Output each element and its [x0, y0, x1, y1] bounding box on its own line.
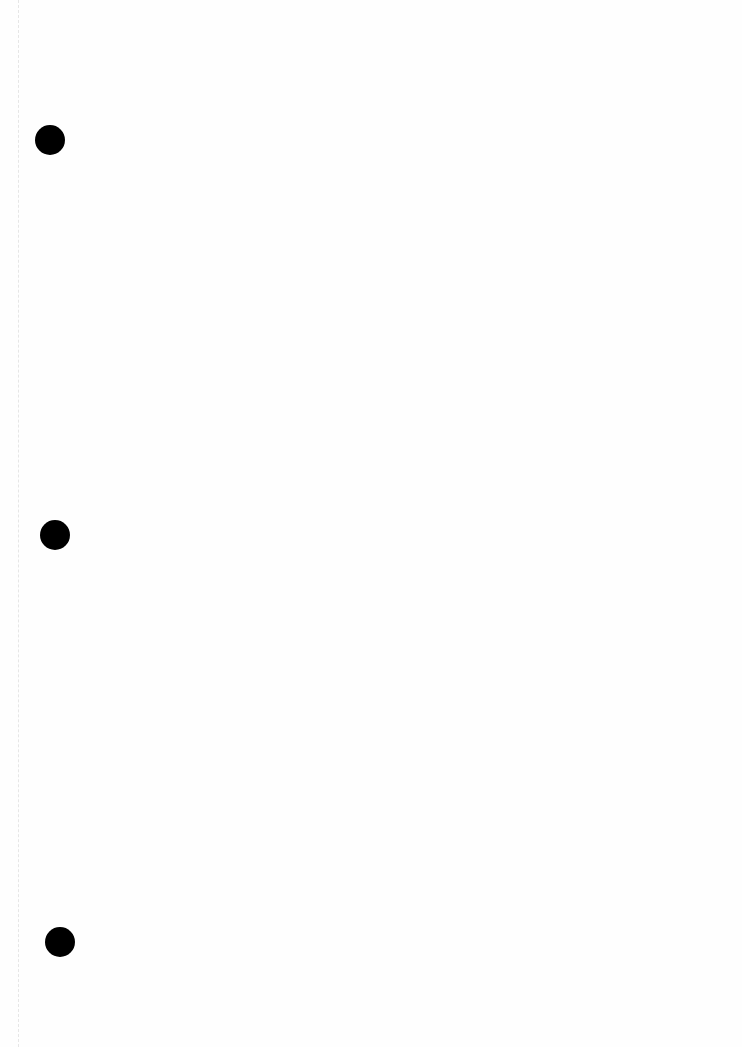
- binding-margin-line: [18, 0, 19, 1047]
- punch-hole-top: [35, 125, 65, 155]
- blank-page: [0, 0, 742, 1047]
- punch-hole-bottom: [45, 927, 75, 957]
- punch-hole-middle: [40, 520, 70, 550]
